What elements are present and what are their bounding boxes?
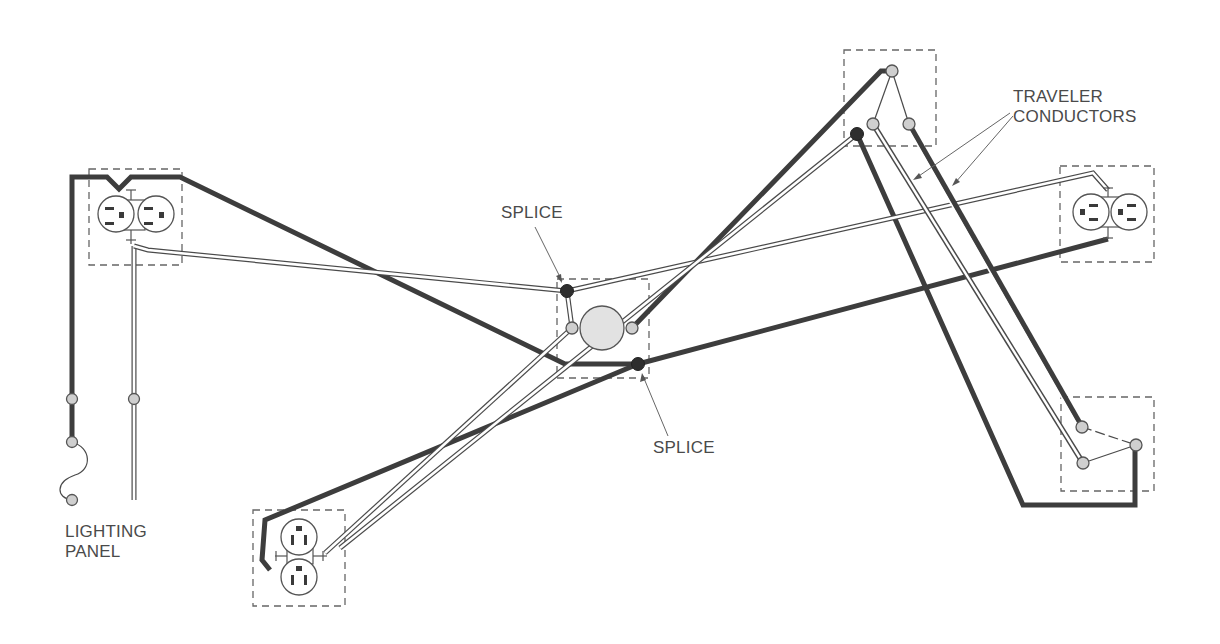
neutral-conductors xyxy=(134,134,1108,553)
terminal-switch-br-traveler-2 xyxy=(1077,457,1089,469)
terminal-switch-top-traveler-2 xyxy=(903,118,915,130)
lighting-fixture xyxy=(580,306,624,350)
leader-arrows xyxy=(535,113,1013,436)
splice-top-switch xyxy=(851,128,864,141)
terminal-switch-top-common xyxy=(886,65,898,77)
label-lighting-panel: LIGHTING PANEL xyxy=(65,522,147,562)
label-splice-top: SPLICE xyxy=(501,203,563,223)
label-splice-bottom: SPLICE xyxy=(653,438,715,458)
terminal-fixture-hot xyxy=(626,322,638,334)
terminals xyxy=(67,65,1143,506)
label-traveler-conductors: TRAVELER CONDUCTORS xyxy=(1013,87,1137,127)
terminal-fixture-neutral xyxy=(566,322,578,334)
terminal-switch-top-traveler-1 xyxy=(867,118,879,130)
terminal-panel-lead xyxy=(67,495,78,506)
terminal-switch-br-traveler-1 xyxy=(1076,421,1088,433)
panel-lead xyxy=(60,442,87,500)
duplex-receptacle-right xyxy=(1073,187,1147,239)
terminal-switch-br-common xyxy=(1130,439,1142,451)
duplex-receptacle-bottom xyxy=(275,519,327,595)
duplex-receptacle-left xyxy=(98,190,174,244)
terminal-panel-neutral xyxy=(129,394,140,405)
terminal-panel-hot-1 xyxy=(67,394,78,405)
splice-neutral xyxy=(561,285,574,298)
terminal-panel-hot-2 xyxy=(67,437,78,448)
splice-hot xyxy=(632,358,645,371)
